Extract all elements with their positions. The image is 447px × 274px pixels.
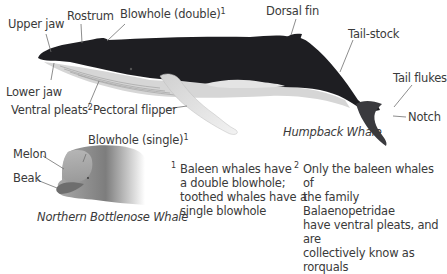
label-pectoral-flipper: Pectoral flipper xyxy=(93,104,177,117)
label-melon: Melon xyxy=(13,148,47,161)
footnote-1-line: a double blowhole; xyxy=(180,176,310,190)
footnote-2-line: Only the baleen whales of xyxy=(303,162,445,190)
label-lower-jaw: Lower jaw xyxy=(6,86,62,99)
label-beak: Beak xyxy=(13,172,41,185)
label-blowhole-single: Blowhole (single)1 xyxy=(88,134,188,147)
footnote-1-line: toothed whales have a xyxy=(180,190,310,204)
label-upper-jaw: Upper jaw xyxy=(8,18,64,31)
bottlenose-whale xyxy=(56,145,145,205)
footnote-1-line: single blowhole xyxy=(180,204,310,218)
label-ventral-pleats: Ventral pleats2 xyxy=(11,104,93,117)
label-dorsal-fin: Dorsal fin xyxy=(266,5,319,18)
label-notch: Notch xyxy=(408,111,441,124)
caption-humpback-whale: Humpback Whale xyxy=(283,125,382,139)
footnote-2-line: have ventral pleats, and are xyxy=(303,218,445,246)
caption-bottlenose-whale: Northern Bottlenose Whale xyxy=(37,210,188,224)
label-tail-flukes: Tail flukes xyxy=(393,72,447,85)
footnote-2: 2 Only the baleen whales of the family B… xyxy=(303,162,445,274)
footnote-1: 1 Baleen whales have a double blowhole; … xyxy=(180,162,310,218)
footnote-1-line: Baleen whales have xyxy=(180,162,310,176)
footnote-1-marker: 1 xyxy=(171,159,176,173)
footnote-2-line: the family Balaenopetridae xyxy=(303,190,445,218)
footnote-2-marker: 2 xyxy=(294,159,299,173)
label-rostrum: Rostrum xyxy=(67,10,114,23)
label-tail-stock: Tail-stock xyxy=(348,28,399,41)
label-blowhole-double: Blowhole (double)1 xyxy=(120,8,225,21)
tail-flukes xyxy=(356,101,387,146)
footnote-2-line: collectively know as rorquals xyxy=(303,246,445,274)
